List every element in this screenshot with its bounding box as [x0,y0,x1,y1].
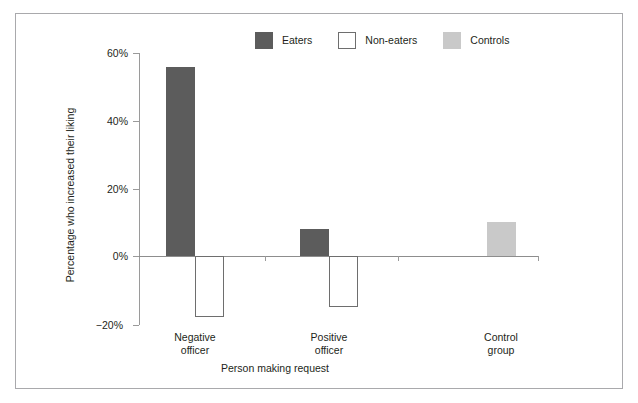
bar-positive-officer-eaters [300,229,329,256]
bar-control-group-controls [487,222,516,256]
y-tick-label-20: 20% [90,183,128,195]
y-tick-20 [133,189,139,190]
plot-area: 60% 40% 20% 0% −20% Percentage who incre… [0,0,638,403]
y-axis-line [139,53,140,325]
y-axis-title-wrap: Percentage who increased their liking [64,0,78,80]
bar-negative-officer-eaters [166,67,195,256]
x-tick-label-positive-officer-line2: officer [315,344,343,356]
x-tick-label-positive-officer: Positive officer [274,331,384,357]
y-tick-label-neg20: −20% [85,319,123,331]
bar-positive-officer-non-eaters [329,256,358,307]
y-tick-label-60: 60% [90,47,128,59]
y-tick-label-40: 40% [90,115,128,127]
y-axis-title: Percentage who increased their liking [64,80,76,310]
x-axis-title: Person making request [155,362,395,374]
bar-negative-officer-non-eaters [195,256,224,317]
x-tick-label-negative-officer-line1: Negative [174,331,215,343]
x-tick-end [538,256,539,261]
y-tick-neg20 [133,325,139,326]
bar-chart-figure: Eaters Non-eaters Controls 60% 40% 20% 0… [0,0,638,403]
x-tick-label-negative-officer: Negative officer [140,331,250,357]
x-tick-label-control-group: Control group [446,331,556,357]
y-tick-60 [133,53,139,54]
x-tick-separator-1 [265,256,266,261]
y-tick-label-0: 0% [90,250,128,262]
y-tick-40 [133,121,139,122]
x-tick-label-negative-officer-line2: officer [181,344,209,356]
y-tick-0 [133,256,139,257]
x-tick-label-positive-officer-line1: Positive [311,331,348,343]
x-tick-separator-2 [398,256,399,261]
x-tick-label-control-group-line1: Control [484,331,518,343]
x-tick-label-control-group-line2: group [488,344,515,356]
